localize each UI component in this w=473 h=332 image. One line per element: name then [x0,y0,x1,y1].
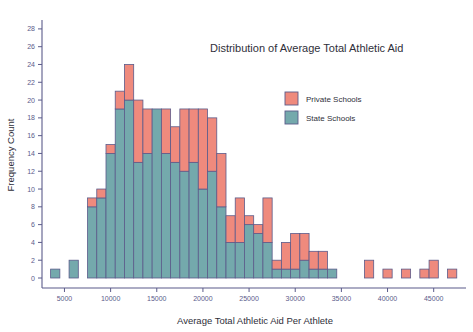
bar-private-schools [383,269,392,278]
bar-private-schools [309,251,318,269]
bar-state-schools [291,269,300,278]
bar-private-schools [198,109,207,189]
y-tick-label: 16 [27,132,35,139]
bar-state-schools [263,242,272,278]
bar-state-schools [180,171,189,278]
bar-state-schools [217,207,226,278]
bar-private-schools [318,251,327,269]
bar-state-schools [318,269,327,278]
bar-private-schools [226,216,235,243]
bar-state-schools [115,109,124,278]
bar-private-schools [401,269,410,278]
bar-state-schools [226,242,235,278]
x-axis-title: Average Total Athletic Aid Per Athlete [177,315,333,326]
legend-swatch-private-schools[interactable] [285,92,298,105]
y-tick-label: 8 [31,203,35,210]
y-tick-label: 28 [27,25,35,32]
x-tick-label: 10000 [101,295,121,302]
y-tick-label: 4 [31,239,35,246]
bar-private-schools [281,242,290,269]
bar-state-schools [328,269,337,278]
bar-state-schools [281,269,290,278]
bar-private-schools [300,234,309,261]
bar-private-schools [429,260,438,278]
bar-state-schools [171,162,180,278]
bar-private-schools [420,269,429,278]
bar-private-schools [171,127,180,163]
x-tick-label: 40000 [378,295,398,302]
bar-state-schools [134,162,143,278]
bar-private-schools [143,109,152,153]
bar-state-schools [235,242,244,278]
bar-private-schools [448,269,457,278]
x-tick-label: 45000 [424,295,444,302]
bar-state-schools [198,189,207,278]
bar-private-schools [97,189,106,198]
bar-private-schools [263,198,272,242]
y-tick-label: 10 [27,186,35,193]
bar-state-schools [152,109,161,278]
bar-state-schools [244,225,253,278]
y-tick-label: 18 [27,114,35,121]
y-tick-label: 20 [27,97,35,104]
bar-state-schools [69,260,78,278]
bar-private-schools [189,109,198,162]
bar-private-schools [244,216,253,225]
bar-private-schools [254,225,263,234]
bar-state-schools [143,153,152,278]
bar-state-schools [208,171,217,278]
x-tick-label: 5000 [57,295,73,302]
bar-private-schools [217,153,226,206]
bar-state-schools [189,162,198,278]
x-tick-label: 30000 [285,295,305,302]
bar-private-schools [235,198,244,242]
legend-label-state-schools: State Schools [306,114,355,123]
y-tick-label: 2 [31,257,35,264]
x-tick-label: 20000 [193,295,213,302]
bar-state-schools [124,100,133,278]
bar-state-schools [300,260,309,278]
chart-title: Distribution of Average Total Athletic A… [210,42,403,54]
bar-private-schools [161,109,170,153]
bar-state-schools [97,198,106,278]
legend-label-private-schools: Private Schools [306,95,362,104]
y-tick-label: 12 [27,168,35,175]
bar-private-schools [180,109,189,171]
bar-state-schools [88,207,97,278]
y-tick-label: 6 [31,221,35,228]
x-tick-label: 15000 [147,295,167,302]
bar-state-schools [106,153,115,278]
bar-private-schools [364,260,373,278]
y-tick-label: 24 [27,61,35,68]
histogram-chart: 0246810121416182022242628500010000150002… [0,0,473,332]
y-tick-label: 0 [31,275,35,282]
bar-private-schools [208,118,217,171]
x-tick-label: 35000 [332,295,352,302]
bar-state-schools [254,234,263,278]
bar-private-schools [272,260,281,269]
bar-private-schools [134,100,143,162]
y-tick-label: 14 [27,150,35,157]
x-tick-label: 25000 [239,295,259,302]
bar-private-schools [106,145,115,154]
bar-state-schools [272,269,281,278]
y-axis-title: Frequency Count [5,118,16,191]
chart-canvas: 0246810121416182022242628500010000150002… [0,0,473,332]
bar-state-schools [161,153,170,278]
bar-state-schools [309,269,318,278]
bar-private-schools [115,91,124,109]
bar-private-schools [88,198,97,207]
bar-private-schools [291,234,300,270]
bar-state-schools [51,269,60,278]
y-tick-label: 26 [27,43,35,50]
y-tick-label: 22 [27,79,35,86]
legend-swatch-state-schools[interactable] [285,111,298,124]
bar-private-schools [124,64,133,100]
